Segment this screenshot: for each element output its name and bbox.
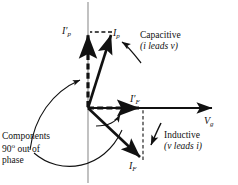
label-ip: Ip <box>113 27 120 40</box>
annotation-capacitive: Capacitive (i leads v) <box>140 30 181 52</box>
annotation-inductive-line2: (v leads i) <box>164 141 202 152</box>
vector-ip <box>88 35 111 108</box>
leader-arrow-capacitive <box>122 42 141 63</box>
annotation-components-line3: phase <box>2 155 50 166</box>
label-vg-sub: g <box>210 120 214 128</box>
annotation-inductive-line1: Inductive <box>164 130 200 140</box>
annotation-components-line1: Components <box>2 131 50 141</box>
annotation-components-degrees: 90 <box>2 144 12 154</box>
leader-arrow-inductive <box>151 123 161 145</box>
annotation-inductive: Inductive (v leads i) <box>164 130 202 152</box>
annotation-components: Components 90o out of phase <box>2 131 50 167</box>
phasor-diagram-figure: I′p Ip I′F IF Vg Capacitive (i leads v) … <box>0 0 238 185</box>
label-ip-prime-sub: p <box>68 30 72 38</box>
vector-if <box>88 108 140 157</box>
label-if: IF <box>129 160 137 173</box>
annotation-components-line2-post: out of <box>15 144 40 154</box>
annotation-capacitive-line1: Capacitive <box>140 30 181 40</box>
annotation-capacitive-line2: (i leads v) <box>140 41 181 52</box>
label-if-prime-sub: F <box>136 98 140 106</box>
label-if-prime: I′F <box>130 93 140 106</box>
label-ip-prime: I′p <box>62 25 71 38</box>
annotation-components-line2: 90o out of <box>2 142 50 155</box>
label-ip-sub: p <box>116 32 120 40</box>
label-if-sub: F <box>132 165 136 173</box>
label-vg-axis: Vg <box>204 115 214 128</box>
